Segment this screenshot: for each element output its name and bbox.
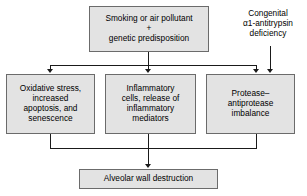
node-oxidative: Oxidative stress, increased apoptosis, a…	[6, 74, 95, 134]
node-oxidative-line-4: senescence	[9, 114, 92, 124]
diagram-canvas: Smoking or air pollutant + genetic predi…	[0, 0, 307, 196]
node-inflammatory-line-4: mediators	[108, 114, 193, 124]
connector-protease-down	[256, 134, 257, 148]
node-outcome-line-1: Alveolar wall destruction	[82, 174, 215, 184]
arrowhead-to-protease	[253, 69, 259, 73]
connector-congenital-to-protease	[270, 46, 271, 71]
node-inflammatory: Inflammatory cells, release of inflammat…	[105, 74, 196, 134]
node-protease: Protease– antiprotease imbalance	[206, 74, 295, 134]
node-outcome: Alveolar wall destruction	[79, 169, 218, 189]
node-outcome-text: Alveolar wall destruction	[82, 174, 215, 184]
connector-merge-bar	[50, 148, 257, 149]
node-cause-line-3: genetic predisposition	[92, 34, 206, 44]
node-protease-text: Protease– antiprotease imbalance	[209, 89, 292, 118]
node-protease-line-3: imbalance	[209, 109, 292, 119]
node-inflammatory-text: Inflammatory cells, release of inflammat…	[108, 84, 193, 123]
connector-inflammatory-down	[148, 134, 149, 166]
arrowhead-congenital-to-protease	[267, 69, 273, 73]
connector-cause-stem	[148, 52, 149, 65]
text-congenital: Congenital α1-antitrypsin deficiency	[222, 9, 307, 43]
arrowhead-to-inflammatory	[145, 69, 151, 73]
arrowhead-to-oxidative	[47, 69, 53, 73]
connector-distribution-bar	[50, 65, 256, 66]
node-cause-text: Smoking or air pollutant + genetic predi…	[92, 14, 206, 43]
arrowhead-to-outcome	[145, 164, 151, 168]
node-oxidative-text: Oxidative stress, increased apoptosis, a…	[9, 84, 92, 123]
connector-oxidative-down	[50, 134, 51, 148]
node-cause: Smoking or air pollutant + genetic predi…	[89, 6, 209, 52]
text-congenital-line-3: deficiency	[222, 29, 307, 39]
